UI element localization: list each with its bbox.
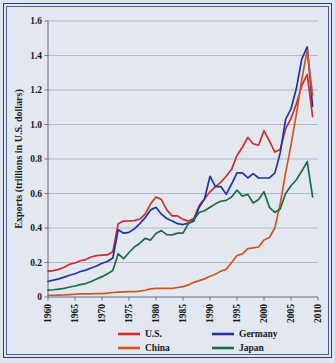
legend-label-china: China	[145, 343, 170, 353]
x-tick-label: 2005	[286, 304, 296, 323]
y-axis-title: Exports (trillions in U.S. dollars)	[13, 89, 25, 228]
data-series-group	[48, 47, 313, 295]
legend-label-japan: Japan	[239, 343, 265, 353]
chart-legend: U.S.GermanyChinaJapan	[118, 329, 278, 353]
line-chart: 00.20.40.60.81.01.21.41.6 19601965197019…	[0, 0, 335, 363]
x-tick-label: 1965	[70, 304, 80, 323]
x-tick-label: 1980	[151, 304, 161, 323]
y-tick-label: 0.4	[30, 223, 42, 233]
x-tick-label: 2000	[259, 304, 269, 323]
y-tick-label: 1.6	[30, 16, 42, 26]
y-tick-label: 0.2	[30, 258, 42, 268]
x-tick-label: 2010	[313, 304, 323, 323]
x-axis-tick-labels: 1960196519701975198019851990199520002005…	[43, 304, 323, 323]
y-tick-label: 0.8	[30, 154, 42, 164]
y-tick-label: 1.0	[30, 120, 42, 130]
x-tick-label: 1970	[97, 304, 107, 323]
legend-label-us: U.S.	[145, 329, 162, 339]
y-tick-label: 0	[37, 292, 42, 302]
plot-container: 00.20.40.60.81.01.21.41.6 19601965197019…	[0, 0, 335, 363]
x-tick-label: 1990	[205, 304, 215, 323]
series-line-japan	[48, 162, 313, 291]
y-tick-label: 1.2	[30, 85, 42, 95]
x-tick-label: 1960	[43, 304, 53, 323]
axis-tickmarks	[45, 21, 319, 301]
y-tick-label: 0.6	[30, 189, 42, 199]
series-line-germany	[48, 47, 313, 282]
legend-label-germany: Germany	[239, 329, 278, 339]
y-axis-tick-labels: 00.20.40.60.81.01.21.41.6	[30, 16, 42, 302]
series-line-us	[48, 74, 313, 271]
x-tick-label: 1995	[232, 304, 242, 323]
y-tick-label: 1.4	[30, 51, 42, 61]
x-tick-label: 1985	[178, 304, 188, 323]
chart-figure: 00.20.40.60.81.01.21.41.6 19601965197019…	[0, 0, 335, 363]
x-tick-label: 1975	[124, 304, 134, 323]
gridlines	[48, 21, 318, 263]
